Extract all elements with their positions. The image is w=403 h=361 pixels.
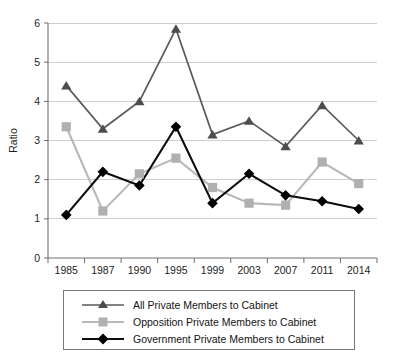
data-point-opposition-private-members <box>135 169 144 178</box>
x-axis-ticks: 198519871990199519992003200720112014 <box>48 258 377 276</box>
legend-item-all: All Private Members to Cabinet <box>64 296 354 313</box>
data-point-government-private-members <box>317 196 328 207</box>
line-chart: 0123456 19851987199019951999200320072011… <box>0 0 403 361</box>
legend-item-government: Government Private Members to Cabinet <box>64 330 354 347</box>
data-point-all-private-members <box>317 101 327 110</box>
data-point-opposition-private-members <box>318 157 327 166</box>
data-point-opposition-private-members <box>98 206 107 215</box>
x-tick-label: 1987 <box>91 264 115 276</box>
x-tick-label: 2011 <box>311 264 334 276</box>
chart-legend: All Private Members to Cabinet Oppositio… <box>63 290 355 350</box>
square-marker-icon <box>80 315 126 329</box>
y-tick-label: 1 <box>34 212 40 224</box>
data-point-government-private-members <box>280 190 291 201</box>
y-tick-label: 5 <box>34 56 40 68</box>
y-tick-label: 6 <box>34 17 40 29</box>
data-point-opposition-private-members <box>62 122 71 131</box>
data-point-opposition-private-members <box>244 199 253 208</box>
chart-canvas: 0123456 19851987199019951999200320072011… <box>0 0 403 285</box>
data-point-all-private-members <box>61 81 71 90</box>
y-tick-label: 2 <box>34 173 40 185</box>
x-tick-label: 1985 <box>55 264 79 276</box>
series-markers <box>61 24 364 220</box>
x-tick-label: 2014 <box>347 264 371 276</box>
legend-label-all: All Private Members to Cabinet <box>133 298 278 312</box>
x-tick-label: 1999 <box>201 264 225 276</box>
y-axis-title: Ratio <box>7 128 19 153</box>
triangle-marker-icon <box>80 298 126 312</box>
data-point-all-private-members <box>244 116 254 125</box>
x-tick-label: 1995 <box>164 264 188 276</box>
data-point-opposition-private-members <box>208 183 217 192</box>
legend-label-government: Government Private Members to Cabinet <box>133 332 324 346</box>
data-point-all-private-members <box>171 24 181 33</box>
data-point-opposition-private-members <box>281 201 290 210</box>
legend-item-opposition: Opposition Private Members to Cabinet <box>64 313 354 330</box>
legend-label-opposition: Opposition Private Members to Cabinet <box>133 315 316 329</box>
data-point-government-private-members <box>171 121 182 132</box>
diamond-marker-icon <box>80 332 126 346</box>
x-tick-label: 2007 <box>274 264 298 276</box>
y-tick-label: 3 <box>34 134 40 146</box>
y-tick-label: 4 <box>34 95 40 107</box>
data-point-government-private-members <box>134 180 145 191</box>
y-axis-ticks: 0123456 <box>34 17 48 264</box>
series-line-all-private-members <box>66 29 358 147</box>
y-tick-label: 0 <box>34 252 40 264</box>
data-point-government-private-members <box>353 204 364 215</box>
data-point-opposition-private-members <box>171 154 180 163</box>
plot-area: 0123456 19851987199019951999200320072011… <box>0 0 403 285</box>
x-tick-label: 1990 <box>128 264 152 276</box>
x-tick-label: 2003 <box>237 264 261 276</box>
data-point-all-private-members <box>207 130 217 139</box>
data-point-opposition-private-members <box>354 179 363 188</box>
